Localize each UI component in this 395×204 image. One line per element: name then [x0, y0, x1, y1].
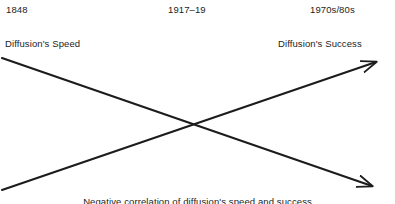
diagram-caption: Negative correlation of diffusion's spee… [0, 196, 395, 204]
success-arrow-line [2, 62, 376, 190]
diagram-canvas: 1848 1917–19 1970s/80s Diffusion's Speed… [0, 0, 395, 204]
series-label-success: Diffusion's Success [278, 38, 362, 50]
series-label-speed: Diffusion's Speed [5, 38, 80, 50]
crossing-arrows-graphic [0, 0, 395, 204]
speed-arrow-line [2, 58, 372, 186]
timeline-label-start: 1848 [6, 4, 28, 16]
timeline-label-middle: 1917–19 [168, 4, 206, 16]
timeline-label-end: 1970s/80s [310, 4, 355, 16]
